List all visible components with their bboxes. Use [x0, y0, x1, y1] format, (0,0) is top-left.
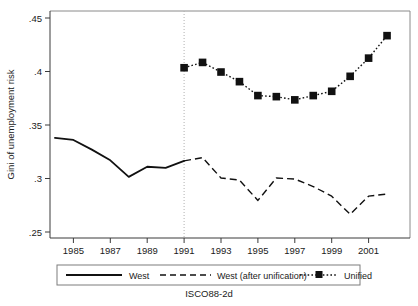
data-point-marker: [254, 92, 262, 100]
legend-swatch-square-marker: [316, 271, 323, 278]
data-point-marker: [328, 88, 336, 96]
data-point-marker: [236, 78, 244, 86]
legend-label-west: West: [129, 271, 150, 281]
data-point-marker: [346, 73, 354, 81]
x-tick-label: 1997: [284, 245, 305, 256]
y-tick-label: .4: [34, 66, 42, 77]
data-point-marker: [291, 96, 299, 104]
gini-unemployment-risk-line-chart: .45 .4 .35 .3 .25 Gini of unemployment r…: [0, 0, 418, 306]
data-point-marker: [199, 59, 207, 67]
y-tick-label: .3: [34, 173, 42, 184]
x-tick-label: 1987: [100, 245, 121, 256]
y-tick-label: .45: [29, 13, 42, 24]
x-tick-label: 1995: [247, 245, 268, 256]
data-point-marker: [180, 64, 188, 72]
chart-figure: .45 .4 .35 .3 .25 Gini of unemployment r…: [0, 0, 418, 306]
y-tick-label: .35: [29, 120, 42, 131]
legend-label-west-after-unification: West (after unification): [217, 271, 307, 281]
figure-background: [0, 0, 418, 306]
data-point-marker: [217, 68, 225, 76]
x-tick-label: 1999: [321, 245, 342, 256]
x-tick-label: 1993: [210, 245, 231, 256]
chart-legend: West West (after unification) Unified: [57, 265, 372, 285]
data-point-marker: [273, 93, 281, 101]
y-axis-title: Gini of unemployment risk: [5, 69, 16, 179]
x-tick-label: 1989: [137, 245, 158, 256]
data-point-marker: [365, 54, 373, 62]
x-tick-label: 2001: [358, 245, 379, 256]
x-tick-label: 1991: [174, 245, 195, 256]
chart-note: ISCO88-2d: [185, 288, 233, 299]
x-axis: 1985 1987 1989 1991 1993 1995: [63, 238, 379, 256]
legend-label-unified: Unified: [344, 271, 372, 281]
y-tick-label: .25: [29, 227, 42, 238]
data-point-marker: [309, 92, 317, 100]
x-tick-label: 1985: [63, 245, 84, 256]
data-point-marker: [383, 32, 391, 40]
